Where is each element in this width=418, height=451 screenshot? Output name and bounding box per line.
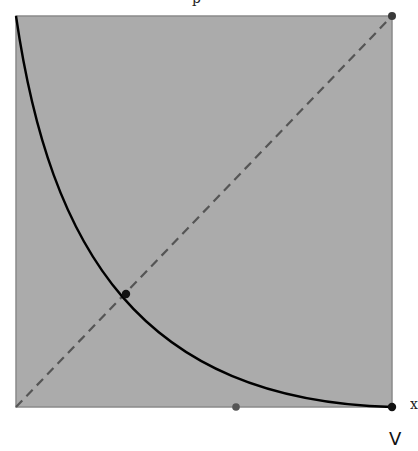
diagram-canvas — [0, 0, 418, 451]
point-bottom-right — [388, 403, 396, 411]
bottom-axis-label: V — [389, 428, 401, 449]
top-label: p — [192, 0, 201, 6]
point-bottom-mid — [232, 403, 240, 411]
right-axis-label: x — [410, 396, 418, 412]
diagram-figure: p x V — [0, 0, 418, 451]
point-top-right — [388, 12, 396, 20]
point-intersection — [122, 290, 130, 298]
